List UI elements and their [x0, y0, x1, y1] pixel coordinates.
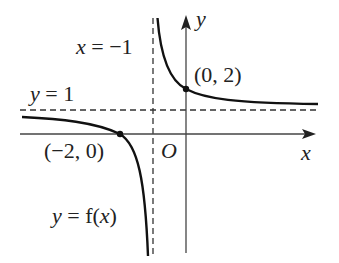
point-neg2-0 — [117, 131, 123, 137]
function-graph: x = −1 y = 1 (0, 2) (−2, 0) O x y y = f(… — [0, 0, 339, 263]
point-neg2-0-label: (−2, 0) — [44, 138, 104, 163]
vertical-asymptote-label: x = −1 — [75, 34, 133, 59]
point-0-2-label: (0, 2) — [194, 62, 242, 87]
y-axis-label: y — [194, 6, 206, 31]
x-axis-label: x — [300, 140, 311, 165]
point-0-2 — [183, 86, 189, 92]
horizontal-asymptote-label: y = 1 — [28, 81, 74, 106]
function-label: y = f(x) — [50, 203, 117, 228]
origin-label: O — [161, 138, 177, 163]
curve-right-branch — [158, 18, 319, 104]
